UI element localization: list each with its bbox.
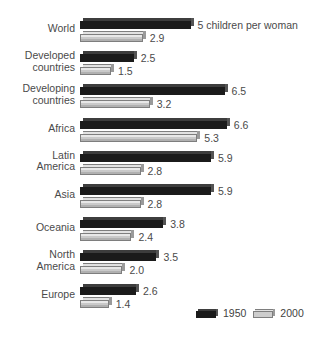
bar-2000: [80, 263, 125, 274]
legend-item-2000: 2000: [253, 308, 303, 319]
category-label: Developingcountries: [0, 83, 75, 106]
bar-2000: [80, 297, 112, 308]
value-label-1950: 3.5: [163, 252, 178, 263]
value-label-2000: 2.8: [148, 199, 163, 210]
value-label-1950: 2.6: [143, 286, 158, 297]
bar-1950: [80, 151, 214, 162]
value-label-2000: 3.2: [157, 99, 172, 110]
chart-row: Developedcountries2.51.5: [0, 49, 314, 79]
bar-1950: [80, 84, 228, 95]
category-label: Oceania: [0, 222, 75, 234]
value-label-1950: 6.5: [232, 86, 247, 97]
value-label-2000: 1.4: [116, 299, 131, 310]
bar-2000: [80, 164, 144, 175]
category-label: Developedcountries: [0, 50, 75, 73]
chart-row: Africa6.65.3: [0, 116, 314, 146]
bar-2000: [80, 97, 153, 108]
value-label-2000: 2.8: [148, 166, 163, 177]
bar-1950: [80, 18, 194, 29]
category-label: World: [0, 23, 75, 35]
bar-2000: [80, 230, 134, 241]
bar-2000: [80, 64, 114, 75]
bar-1950: [80, 284, 139, 295]
category-label: Europe: [0, 289, 75, 301]
legend-item-1950: 1950: [196, 308, 246, 319]
bar-1950: [80, 184, 214, 195]
chart-row: Oceania3.82.4: [0, 215, 314, 245]
category-label: Asia: [0, 189, 75, 201]
legend-swatch-1950: [196, 309, 218, 318]
chart-legend: 1950 2000: [196, 306, 304, 320]
value-label-1950: 5.9: [218, 186, 233, 197]
bar-1950: [80, 118, 230, 129]
value-label-2000: 2.4: [138, 232, 153, 243]
value-label-1950: 2.5: [141, 53, 156, 64]
chart-row: Developingcountries6.53.2: [0, 82, 314, 112]
value-label-2000: 5.3: [204, 133, 219, 144]
value-label-2000: 1.5: [118, 66, 133, 77]
value-label-1950: 3.8: [170, 219, 185, 230]
category-label: NorthAmerica: [0, 249, 75, 272]
fertility-bar-chart: World5 children per woman2.9Developedcou…: [0, 0, 314, 341]
value-label-1950: 5.9: [218, 153, 233, 164]
legend-label-1950: 1950: [223, 308, 246, 319]
bar-1950: [80, 217, 166, 228]
category-label: LatinAmerica: [0, 150, 75, 173]
value-label-1950: 6.6: [234, 120, 249, 131]
bar-2000: [80, 131, 200, 142]
value-label-2000: 2.0: [129, 265, 144, 276]
legend-swatch-2000: [253, 309, 275, 318]
bar-1950: [80, 51, 137, 62]
chart-row: LatinAmerica5.92.8: [0, 149, 314, 179]
category-label: Africa: [0, 123, 75, 135]
chart-row: NorthAmerica3.52.0: [0, 248, 314, 278]
value-label-2000: 2.9: [150, 33, 165, 44]
chart-row: World5 children per woman2.9: [0, 16, 314, 46]
bar-1950: [80, 250, 159, 261]
bar-2000: [80, 31, 146, 42]
chart-row: Asia5.92.8: [0, 182, 314, 212]
value-label-1950: 5 children per woman: [198, 20, 298, 31]
legend-label-2000: 2000: [280, 308, 303, 319]
bar-2000: [80, 197, 144, 208]
